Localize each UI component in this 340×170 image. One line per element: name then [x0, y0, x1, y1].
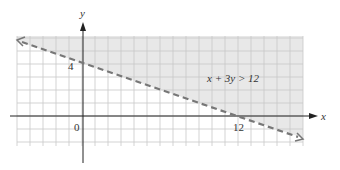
x-tick-label: 12: [233, 122, 244, 133]
inequality-annotation: x + 3y > 12: [207, 73, 259, 84]
y-tick-label: 4: [68, 61, 74, 72]
x-axis-arrow-icon: [309, 113, 318, 119]
origin-label: 0: [74, 122, 80, 133]
y-axis-arrow-icon: [80, 22, 86, 31]
graph: [0, 0, 340, 170]
y-axis-label: y: [80, 8, 85, 19]
x-axis-label: x: [321, 111, 326, 122]
